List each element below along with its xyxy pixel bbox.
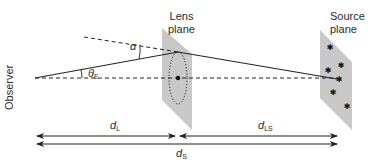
svg-text:✱: ✱	[327, 43, 334, 52]
theta-e-arc	[81, 70, 82, 78]
alpha-text: α	[130, 40, 136, 52]
lens-plane-label: Lens plane	[168, 10, 195, 36]
ds-subscript: S	[182, 153, 187, 160]
lens-plane-label-line2: plane	[168, 23, 195, 36]
dls-symbol: dLS	[258, 119, 273, 132]
dls-subscript: LS	[264, 125, 273, 132]
svg-text:✱: ✱	[344, 102, 351, 111]
source-plane-label-line1: Source	[330, 10, 365, 23]
theta-e-symbol: θE	[88, 67, 99, 80]
lens-mass-dot	[176, 76, 180, 80]
lens-plane-label-line1: Lens	[168, 10, 195, 23]
svg-text:✱: ✱	[338, 61, 345, 70]
dl-subscript: L	[116, 125, 120, 132]
ds-symbol: dS	[176, 147, 187, 160]
svg-text:✱: ✱	[330, 88, 337, 97]
svg-text:✱: ✱	[325, 66, 332, 75]
source-plane-label-line2: plane	[330, 23, 365, 36]
dl-symbol: dL	[110, 119, 120, 132]
svg-text:✱: ✱	[336, 75, 343, 84]
observer-label: Observer	[3, 65, 16, 110]
alpha-arc	[139, 45, 140, 59]
source-plane-label: Source plane	[330, 10, 365, 36]
alpha-symbol: α	[130, 40, 136, 52]
theta-subscript: E	[94, 73, 99, 80]
